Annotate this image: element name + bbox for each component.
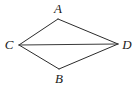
- geometry-figure: A C B D: [0, 0, 139, 86]
- vertex-label-d: D: [122, 38, 131, 51]
- edge-c-a: [19, 19, 58, 45]
- vertex-label-a: A: [54, 2, 62, 15]
- figure-canvas: [0, 0, 139, 86]
- edge-c-d-diagonal: [19, 44, 118, 45]
- vertex-label-c: C: [5, 38, 14, 51]
- edge-a-d: [58, 19, 118, 44]
- edge-b-c: [19, 45, 59, 69]
- edge-d-b: [59, 44, 118, 69]
- vertex-label-b: B: [55, 72, 63, 85]
